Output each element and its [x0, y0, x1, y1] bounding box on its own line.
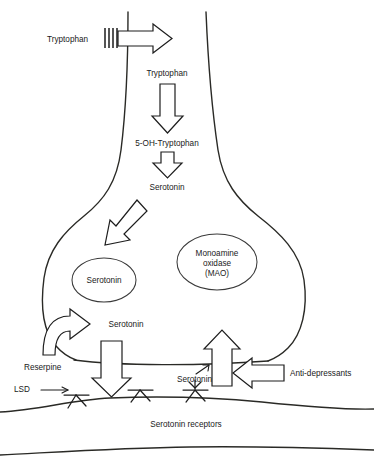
- serotonergic-synapse-diagram: Tryptophan Tryptophan 5-OH-Tryptophan Se…: [0, 0, 374, 461]
- label-serotonin-synthesized: Serotonin: [149, 183, 184, 192]
- thin-line-arrow-lsd: [41, 387, 68, 393]
- serotonin-vesicle: Serotonin: [72, 258, 136, 302]
- serotonin-receptor-icon-2: [128, 390, 153, 402]
- label-mao-line1: Monoamine: [196, 249, 239, 258]
- label-antidepressants: Anti-depressants: [290, 369, 351, 378]
- label-tryptophan-extracellular: Tryptophan: [47, 35, 89, 44]
- reserpine-curved-arrow-group: [43, 309, 90, 355]
- synapse-diagram-canvas: Tryptophan Tryptophan 5-OH-Tryptophan Se…: [0, 0, 374, 461]
- block-arrow-diagonal-to-vesicle: [105, 200, 147, 245]
- label-serotonin-cytoplasm: Serotonin: [108, 320, 143, 329]
- tryptophan-uptake-transport: [105, 24, 172, 53]
- curved-block-arrow-icon: [43, 309, 90, 355]
- membrane-transporter-hatch-icon: [105, 28, 117, 48]
- block-arrow-right-icon: [118, 24, 172, 53]
- block-arrow-down-synthesis-1: [152, 84, 183, 133]
- label-mao-line3: (MAO): [205, 269, 229, 278]
- label-lsd: LSD: [14, 385, 30, 394]
- block-arrow-down-release: [92, 341, 131, 397]
- thin-line-arrow-cleft: [196, 365, 209, 374]
- label-tryptophan-intracellular: Tryptophan: [146, 69, 188, 78]
- label-serotonin-vesicle: Serotonin: [86, 276, 121, 285]
- label-serotonin-receptors: Serotonin receptors: [150, 420, 221, 429]
- block-arrow-down-synthesis-2: [153, 152, 182, 178]
- label-reserpine: Reserpine: [24, 363, 62, 372]
- label-5-oh-tryptophan: 5-OH-Tryptophan: [135, 139, 199, 148]
- label-mao-line2: oxidase: [203, 259, 232, 268]
- mao-enzyme-ellipse: Monoamine oxidase (MAO): [177, 234, 257, 290]
